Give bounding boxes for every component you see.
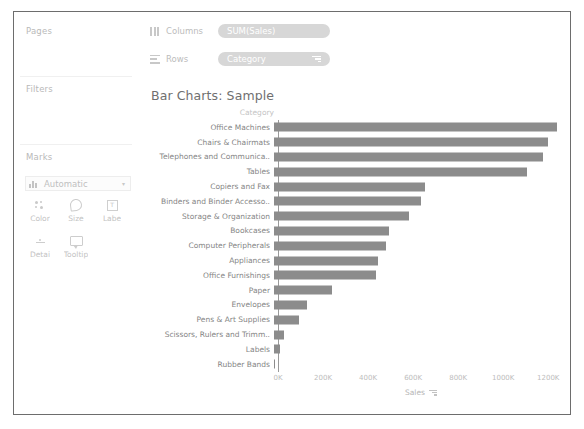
- bar-mark[interactable]: [274, 315, 299, 324]
- tableau-worksheet-window: Pages Filters Marks Automatic ▾ Color: [13, 11, 571, 415]
- bar-row-label[interactable]: Scissors, Rulers and Trimm..: [141, 330, 274, 339]
- bar-row-label[interactable]: Envelopes: [141, 300, 274, 309]
- bar-row-label[interactable]: Labels: [141, 345, 274, 354]
- bar-row-label[interactable]: Tables: [141, 167, 274, 176]
- bar-mark[interactable]: [274, 286, 332, 295]
- bar-track: [274, 224, 564, 239]
- bar-track: [274, 179, 564, 194]
- columns-icon: [149, 26, 160, 36]
- bar-row: Binders and Binder Accesso..: [141, 194, 564, 209]
- bar-row-label[interactable]: Bookcases: [141, 226, 274, 235]
- bar-row-label[interactable]: Copiers and Fax: [141, 182, 274, 191]
- marks-label-label: Labe: [103, 214, 121, 223]
- bar-row-label[interactable]: Computer Peripherals: [141, 241, 274, 250]
- bar-row: Telephones and Communica..: [141, 150, 564, 165]
- bar-row: Copiers and Fax: [141, 179, 564, 194]
- bar-track: [274, 120, 564, 135]
- bar-row: Storage & Organization: [141, 209, 564, 224]
- marks-type-dropdown[interactable]: Automatic ▾: [25, 176, 131, 191]
- marks-card-label: Marks: [26, 152, 52, 162]
- bar-row-label[interactable]: Rubber Bands: [141, 360, 274, 369]
- tooltip-bubble-icon: [70, 234, 83, 248]
- x-axis-ticks: 0K200K400K600K800K1000K1200K: [278, 374, 564, 384]
- color-dots-icon: [35, 198, 45, 212]
- bar-row-label[interactable]: Appliances: [141, 256, 274, 265]
- marks-buttons-row-1: Color Size T Labe: [22, 198, 134, 223]
- filters-shelf-label: Filters: [26, 84, 53, 94]
- x-axis-title[interactable]: Sales: [278, 388, 564, 397]
- bar-row-label[interactable]: Office Furnishings: [141, 271, 274, 280]
- worksheet-main-area: Columns SUM(Sales) Rows Category Bar Cha…: [141, 12, 570, 414]
- rows-shelf[interactable]: Rows Category: [149, 48, 330, 70]
- bar-track: [274, 253, 564, 268]
- label-text-icon: T: [107, 198, 118, 212]
- marks-detail-button[interactable]: Detai: [22, 234, 58, 259]
- bar-row-label[interactable]: Pens & Art Supplies: [141, 315, 274, 324]
- bar-mark[interactable]: [274, 123, 557, 132]
- bar-track: [274, 238, 564, 253]
- bar-mark[interactable]: [274, 226, 389, 235]
- bar-row: Envelopes: [141, 298, 564, 313]
- pill-sum-sales[interactable]: SUM(Sales): [218, 24, 330, 38]
- bar-row-label[interactable]: Office Machines: [141, 123, 274, 132]
- bar-mark[interactable]: [274, 271, 376, 280]
- marks-color-button[interactable]: Color: [22, 198, 58, 223]
- bar-row: Rubber Bands: [141, 357, 564, 372]
- bar-row-label[interactable]: Binders and Binder Accesso..: [141, 197, 274, 206]
- marks-detail-label: Detai: [30, 250, 50, 259]
- x-axis-tick-label: 600K: [404, 374, 422, 382]
- x-axis-tick-label: 400K: [359, 374, 377, 382]
- detail-icon: [35, 234, 46, 248]
- pill-category-text: Category: [227, 54, 306, 64]
- page-title: Bar Charts: Sample: [151, 88, 274, 103]
- axis-sort-icon[interactable]: [429, 390, 437, 396]
- row-field-header: Category: [141, 108, 274, 117]
- bar-row: Pens & Art Supplies: [141, 312, 564, 327]
- bar-row-label[interactable]: Paper: [141, 286, 274, 295]
- bar-mark[interactable]: [274, 212, 409, 221]
- bar-mark[interactable]: [274, 256, 378, 265]
- columns-shelf-label: Columns: [166, 26, 218, 36]
- bar-mark[interactable]: [274, 152, 543, 161]
- label-glyph: T: [107, 200, 118, 211]
- bar-row: Paper: [141, 283, 564, 298]
- columns-shelf[interactable]: Columns SUM(Sales): [149, 20, 330, 42]
- marks-label-button[interactable]: T Labe: [94, 198, 130, 223]
- bar-row-label[interactable]: Chairs & Chairmats: [141, 138, 274, 147]
- marks-tooltip-button[interactable]: Tooltip: [58, 234, 94, 259]
- pages-shelf-label: Pages: [26, 26, 52, 36]
- bar-mark[interactable]: [274, 360, 275, 369]
- bar-mark[interactable]: [274, 345, 280, 354]
- bar-track: [274, 357, 564, 372]
- bar-track: [274, 283, 564, 298]
- bar-mark[interactable]: [274, 182, 425, 191]
- bar-chart: Category Office MachinesChairs & Chairma…: [141, 108, 564, 408]
- bar-row: Appliances: [141, 253, 564, 268]
- bar-mark[interactable]: [274, 300, 307, 309]
- bar-mark[interactable]: [274, 330, 284, 339]
- pill-category[interactable]: Category: [218, 52, 330, 66]
- bar-row-label[interactable]: Storage & Organization: [141, 212, 274, 221]
- bar-mark-icon: [29, 179, 40, 188]
- bar-row: Office Furnishings: [141, 268, 564, 283]
- bar-row-label[interactable]: Telephones and Communica..: [141, 152, 274, 161]
- x-axis-tick-label: 200K: [314, 374, 332, 382]
- bar-row: Computer Peripherals: [141, 238, 564, 253]
- bar-row: Chairs & Chairmats: [141, 135, 564, 150]
- marks-tooltip-label: Tooltip: [64, 250, 88, 259]
- panel-divider-pages: [20, 76, 132, 77]
- bar-row: Labels: [141, 342, 564, 357]
- pill-sum-sales-text: SUM(Sales): [227, 26, 321, 36]
- bar-mark[interactable]: [274, 241, 386, 250]
- x-axis-tick-label: 1000K: [492, 374, 514, 382]
- chevron-down-icon[interactable]: ▾: [122, 181, 125, 187]
- x-axis-tick-label: 1200K: [537, 374, 559, 382]
- bar-mark[interactable]: [274, 167, 527, 176]
- bar-mark[interactable]: [274, 197, 421, 206]
- marks-size-button[interactable]: Size: [58, 198, 94, 223]
- marks-type-value: Automatic: [44, 179, 122, 189]
- bar-track: [274, 150, 564, 165]
- sort-descending-icon[interactable]: [312, 56, 321, 63]
- bar-mark[interactable]: [274, 138, 548, 147]
- panel-divider-filters: [20, 144, 132, 145]
